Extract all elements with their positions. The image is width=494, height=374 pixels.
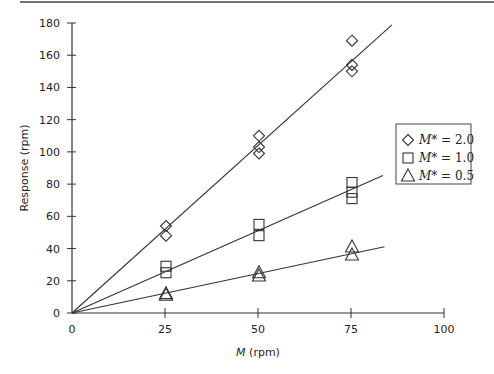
y-tick-label: 140 — [39, 81, 60, 94]
fit-lines — [72, 25, 392, 313]
axes: 0204060801001201401601800255075100 — [39, 17, 455, 336]
legend-label: M* = 0.5 — [418, 169, 474, 183]
x-tick-label: 25 — [158, 323, 172, 336]
diamond-marker — [254, 148, 265, 159]
y-tick-label: 40 — [46, 243, 60, 256]
triangle-marker — [346, 240, 359, 252]
y-tick-label: 0 — [53, 307, 60, 320]
y-tick-label: 80 — [46, 178, 60, 191]
square-marker — [347, 178, 357, 188]
x-tick-label: 0 — [69, 323, 76, 336]
diamond-marker — [347, 35, 358, 46]
fit-line — [72, 247, 384, 313]
x-tick-label: 100 — [434, 323, 455, 336]
y-axis-label: Response (rpm) — [18, 124, 31, 211]
fit-line — [72, 25, 392, 313]
square-marker — [347, 194, 357, 204]
chart: 0204060801001201401601800255075100 Respo… — [0, 0, 494, 374]
y-tick-label: 20 — [46, 275, 60, 288]
y-tick-label: 160 — [39, 49, 60, 62]
triangle-marker — [253, 266, 266, 278]
x-axis-label: M (rpm) — [236, 346, 280, 359]
y-tick-label: 100 — [39, 146, 60, 159]
x-tick-label: 75 — [344, 323, 358, 336]
legend-label: M* = 1.0 — [418, 151, 474, 165]
square-marker — [254, 219, 264, 229]
y-tick-label: 120 — [39, 114, 60, 127]
diamond-marker — [347, 66, 358, 77]
y-tick-label: 180 — [39, 17, 60, 30]
fit-line — [72, 176, 383, 313]
legend-label: M* = 2.0 — [418, 133, 474, 147]
diamond-marker — [254, 130, 265, 141]
legend: M* = 2.0M* = 1.0M* = 0.5 — [396, 124, 474, 184]
data-points — [160, 35, 359, 300]
square-marker — [347, 187, 357, 197]
y-tick-label: 60 — [46, 210, 60, 223]
x-tick-label: 50 — [251, 323, 265, 336]
diamond-marker — [254, 142, 265, 153]
